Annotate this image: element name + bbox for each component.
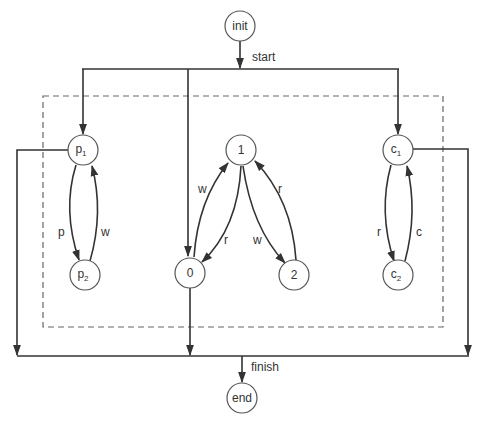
node-end: end bbox=[227, 383, 257, 413]
svg-text:end: end bbox=[232, 391, 252, 405]
edge-n1-n2 bbox=[243, 166, 285, 263]
svg-text:0: 0 bbox=[187, 266, 194, 280]
node-0: 0 bbox=[175, 258, 205, 288]
edge-n0-n1 bbox=[194, 163, 228, 257]
edge-label-c: c bbox=[416, 225, 422, 239]
edge-c2-c1 bbox=[405, 166, 412, 261]
subsystem-boundary bbox=[43, 96, 443, 327]
node-init: init bbox=[225, 11, 255, 41]
svg-text:2: 2 bbox=[291, 268, 298, 282]
edge-label-p: p bbox=[58, 225, 65, 239]
edge-c1-finish bbox=[413, 149, 468, 355]
node-c1: c1 bbox=[383, 135, 413, 165]
edge-label-w-01: w bbox=[197, 182, 207, 196]
node-p2: p2 bbox=[70, 260, 100, 290]
edge-label-r-21: r bbox=[278, 182, 282, 196]
edge-label-w-p: w bbox=[100, 225, 110, 239]
svg-text:1: 1 bbox=[238, 143, 245, 157]
node-2: 2 bbox=[279, 260, 309, 290]
process-diagram: start p w w r w r r c finish init end p1… bbox=[0, 0, 484, 422]
node-1: 1 bbox=[226, 135, 256, 165]
edge-n1-n0 bbox=[202, 166, 241, 262]
edge-p1-p2 bbox=[70, 165, 79, 260]
edge-label-w-12: w bbox=[252, 233, 262, 247]
edge-p2-p1 bbox=[90, 166, 98, 261]
node-c2: c2 bbox=[383, 260, 413, 290]
node-p1: p1 bbox=[68, 135, 98, 165]
edge-label-r-c: r bbox=[377, 225, 381, 239]
edge-label-start: start bbox=[252, 50, 276, 64]
edge-c1-c2 bbox=[385, 165, 394, 261]
svg-text:init: init bbox=[232, 19, 248, 33]
edge-label-r-10: r bbox=[224, 233, 228, 247]
edge-label-finish: finish bbox=[251, 360, 279, 374]
